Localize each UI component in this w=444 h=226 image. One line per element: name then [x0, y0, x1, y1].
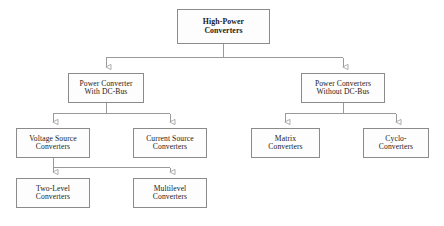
node-label-line2: Converters — [36, 193, 70, 202]
node-label-line2: Converters — [153, 143, 187, 152]
node-label-line2: Converters — [153, 193, 187, 202]
node-label-line2: Converters — [36, 143, 70, 152]
node-label-line2: Without DC-Bus — [317, 88, 370, 97]
node-high-power-converters[interactable]: High-Power Converters — [177, 9, 270, 44]
node-label-line2: Converters — [379, 143, 413, 152]
diagram-canvas: High-Power Converters Power Converter Wi… — [0, 0, 444, 226]
node-power-converter-with-dc-bus[interactable]: Power Converter With DC-Bus — [68, 73, 144, 103]
node-label-line2: With DC-Bus — [85, 88, 128, 97]
node-two-level-converters[interactable]: Two-Level Converters — [16, 178, 90, 208]
node-matrix-converters[interactable]: Matrix Converters — [251, 128, 320, 158]
node-cyclo-converters[interactable]: Cyclo- Converters — [363, 128, 429, 158]
node-label-line2: Converters — [204, 27, 242, 36]
node-current-source-converters[interactable]: Current Source Converters — [133, 128, 207, 158]
node-label-line2: Converters — [268, 143, 302, 152]
node-voltage-source-converters[interactable]: Voltage Source Converters — [16, 128, 90, 158]
node-power-converters-without-dc-bus[interactable]: Power Converters Without DC-Bus — [301, 73, 385, 103]
node-multilevel-converters[interactable]: Multilevel Converters — [133, 178, 207, 208]
